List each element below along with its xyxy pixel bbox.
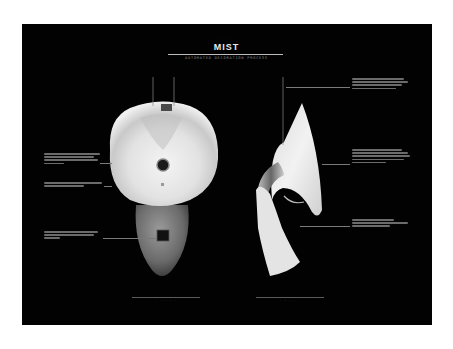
side-view-object [256,103,322,276]
annotation-block [352,78,410,91]
leader-line [300,226,350,227]
leader-line [104,186,112,187]
annotation-block [44,231,100,241]
annotation-block [44,153,102,166]
leader-line [286,87,350,88]
annotation-block [352,149,412,165]
leader-line [103,238,157,239]
annotation-block [44,182,104,188]
caption-rule-side-view [256,297,324,298]
leader-line [322,164,350,165]
product-renderings [0,0,453,349]
top-view-disc [110,101,218,206]
top-view-pod [136,205,189,276]
caption-rule-top-view [132,297,200,298]
annotation-block [352,219,410,229]
leader-line [100,163,112,164]
caption-side-view: · · · · · [256,299,324,303]
caption-top-view: · · · · · [132,299,200,303]
